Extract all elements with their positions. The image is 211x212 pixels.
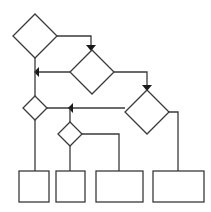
process-box-3 — [96, 171, 143, 202]
decision-node-1 — [13, 14, 57, 58]
edge-d1-to-d2 — [57, 36, 91, 50]
edge-d2-to-d3 — [114, 72, 147, 90]
process-box-2 — [56, 171, 85, 202]
process-box-4 — [153, 171, 204, 202]
decision-node-4 — [23, 96, 47, 120]
decision-node-2 — [70, 50, 114, 94]
flowchart-diagram — [0, 0, 211, 212]
process-box-1 — [19, 171, 49, 202]
edge-d3-to-b4 — [169, 112, 178, 171]
edge-d5-to-b3 — [82, 134, 119, 171]
decision-node-3 — [125, 90, 169, 134]
decision-node-5 — [58, 122, 82, 146]
